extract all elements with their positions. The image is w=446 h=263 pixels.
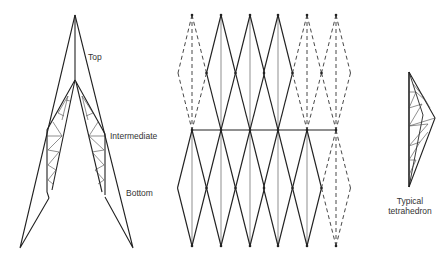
grid-edge — [307, 188, 322, 246]
grid-edge — [278, 73, 293, 130]
grid-node — [234, 72, 237, 75]
grid-edge — [178, 15, 192, 73]
grid-edge — [264, 15, 279, 73]
grid-node — [335, 14, 338, 17]
grid-node — [291, 72, 294, 75]
grid-node — [191, 14, 194, 17]
grid-edge — [236, 130, 251, 188]
grid-edge — [192, 15, 207, 73]
grid-node — [306, 14, 309, 17]
grid-edge — [307, 130, 322, 188]
grid-edge — [293, 188, 308, 246]
grid-edge — [307, 15, 322, 73]
grid-edge — [322, 130, 337, 188]
grid-edge — [207, 15, 222, 73]
grid-edge — [336, 73, 351, 130]
grid-edge — [221, 15, 236, 73]
grid-node — [277, 245, 280, 248]
grid-edge — [322, 73, 337, 130]
grid-node — [291, 187, 294, 190]
grid-node — [234, 187, 237, 190]
grid-edge — [250, 15, 265, 73]
grid-node — [335, 245, 338, 248]
label-intermediate: Intermediate — [110, 131, 158, 141]
grid-edge — [192, 188, 207, 246]
grid-node — [306, 245, 309, 248]
grid-edge — [322, 188, 337, 246]
typical-tetrahedron-figure: Typical tetrahedron — [388, 72, 435, 216]
grid-edge — [278, 130, 293, 188]
grid-node — [249, 245, 252, 248]
grid-edge — [207, 73, 222, 130]
grid-edge — [236, 188, 251, 246]
grid-edge — [264, 188, 279, 246]
grid-edge — [336, 15, 351, 73]
grid-node — [249, 14, 252, 17]
grid-edge — [250, 130, 265, 188]
grid-edge — [221, 73, 236, 130]
grid-node — [320, 187, 323, 190]
label-top: Top — [88, 52, 102, 62]
grid-edge — [293, 130, 308, 188]
grid-edge — [250, 73, 265, 130]
grid-edge — [336, 188, 351, 246]
grid-node — [205, 72, 208, 75]
grid-edge — [336, 130, 351, 188]
grid-edge — [221, 188, 236, 246]
truss-right-bracing — [82, 96, 105, 184]
grid-edge — [236, 73, 251, 130]
grid-edge — [322, 15, 337, 73]
grid-edge — [178, 73, 192, 130]
grid-node — [320, 72, 323, 75]
grid-edge — [192, 73, 207, 130]
grid-edge — [278, 15, 293, 73]
grid-node — [220, 14, 223, 17]
grid-edge — [250, 188, 265, 246]
label-bottom: Bottom — [126, 188, 153, 198]
grid-node — [277, 14, 280, 17]
grid-edge — [293, 73, 308, 130]
grid-edge — [264, 73, 279, 130]
grid-edge — [192, 130, 207, 188]
grid-edge — [307, 73, 322, 130]
tetra-outline — [409, 72, 435, 187]
grid-edge — [207, 188, 222, 246]
grid-edge — [207, 130, 222, 188]
grid-node — [220, 245, 223, 248]
label-typical: Typical — [397, 196, 424, 206]
grid-node — [263, 187, 266, 190]
diamond-grid-figure — [178, 14, 351, 248]
diagram-canvas: Top Intermediate Bottom Typical tetrahed… — [0, 0, 446, 263]
truss-right-wing-inner — [76, 82, 102, 192]
grid-edge — [278, 188, 293, 246]
grid-edge — [236, 15, 251, 73]
left-truss-figure: Top Intermediate Bottom — [20, 15, 158, 248]
grid-node — [263, 72, 266, 75]
grid-edge — [178, 130, 193, 188]
grid-edge — [178, 188, 193, 246]
grid-edge — [293, 15, 308, 73]
grid-node — [205, 187, 208, 190]
label-tetrahedron: tetrahedron — [388, 206, 432, 216]
grid-node — [191, 245, 194, 248]
grid-edge — [221, 130, 236, 188]
grid-edge — [264, 130, 279, 188]
